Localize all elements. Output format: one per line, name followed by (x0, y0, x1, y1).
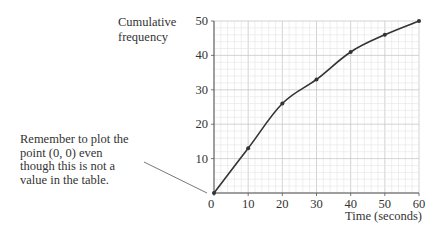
data-point (383, 33, 387, 37)
svg-text:30: 30 (196, 83, 209, 97)
note-line: though this is not a (20, 160, 150, 174)
data-point (349, 50, 353, 54)
note-line: Remember to plot the (20, 133, 150, 147)
data-point (417, 19, 421, 23)
data-point (212, 191, 216, 195)
tick-labels: 01020304050601020304050 (196, 14, 426, 211)
y-axis-label: Cumulative frequency (118, 15, 176, 45)
note-line: point (0, 0) even (20, 147, 150, 161)
svg-text:40: 40 (196, 48, 209, 62)
svg-text:20: 20 (276, 197, 289, 211)
cumulative-frequency-chart: 01020304050601020304050 (0, 0, 440, 237)
svg-text:50: 50 (196, 14, 209, 28)
note-line: value in the table. (20, 174, 150, 188)
grid (214, 21, 419, 193)
annotation-note: Remember to plot the point (0, 0) even t… (20, 133, 150, 187)
y-axis-label-line2: frequency (118, 30, 176, 45)
svg-text:0: 0 (208, 197, 214, 211)
svg-text:30: 30 (310, 197, 323, 211)
y-axis-label-line1: Cumulative (118, 15, 176, 30)
data-point (246, 146, 250, 150)
svg-text:10: 10 (242, 197, 255, 211)
x-axis-label: Time (seconds) (345, 209, 422, 224)
data-point (280, 102, 284, 106)
axes (211, 21, 419, 196)
svg-text:10: 10 (196, 152, 209, 166)
data-point (315, 77, 319, 81)
svg-text:20: 20 (196, 117, 209, 131)
annotation-pointer-line (144, 162, 207, 193)
